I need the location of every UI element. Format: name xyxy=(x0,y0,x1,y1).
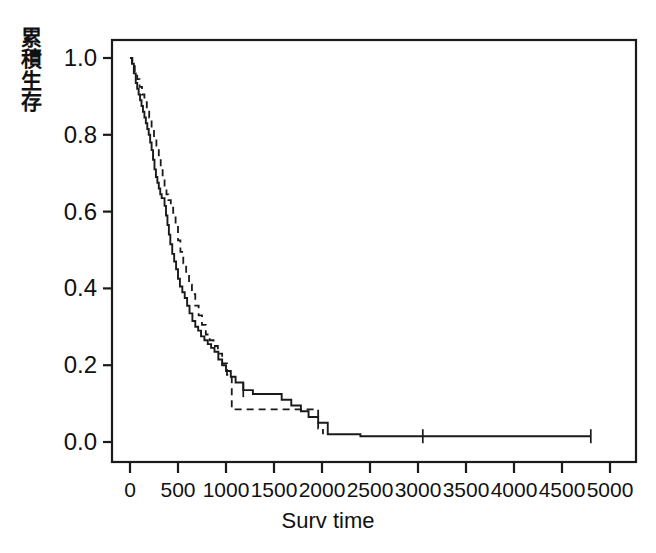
y-tick-label: 1.0 xyxy=(64,44,97,71)
x-axis-ticks: 0500100015002000250030003500400045005000 xyxy=(124,462,633,501)
x-tick-label: 2000 xyxy=(299,478,346,501)
plot-frame-box xyxy=(112,40,636,462)
x-tick-label: 500 xyxy=(160,478,195,501)
y-axis-label-char-2: 生 xyxy=(21,71,42,92)
x-tick-label: 1000 xyxy=(203,478,250,501)
plot-area: 0.00.20.40.60.81.0 050010001500200025003… xyxy=(0,0,656,553)
y-axis-label-char-0: 累 xyxy=(21,28,42,49)
x-tick-label: 3000 xyxy=(395,478,442,501)
x-tick-label: 4500 xyxy=(539,478,586,501)
x-tick-label: 5000 xyxy=(587,478,634,501)
x-tick-label: 1500 xyxy=(251,478,298,501)
survival-curves xyxy=(130,58,591,443)
x-tick-label: 2500 xyxy=(347,478,394,501)
x-tick-label: 0 xyxy=(124,478,136,501)
y-axis-label: 累 積 生 存 xyxy=(14,28,48,114)
y-tick-label: 0.0 xyxy=(64,428,97,455)
x-tick-label: 4000 xyxy=(491,478,538,501)
y-axis-label-char-1: 積 xyxy=(21,49,42,70)
plot-frame xyxy=(112,40,636,462)
survival-chart-figure: 累 積 生 存 0.00.20.40.60.81.0 0500100015002… xyxy=(0,0,656,553)
y-tick-label: 0.4 xyxy=(64,274,97,301)
curve-dashed-curve xyxy=(130,58,323,434)
y-tick-label: 0.6 xyxy=(64,198,97,225)
x-axis-label: Surv time xyxy=(0,508,656,534)
y-tick-label: 0.2 xyxy=(64,351,97,378)
y-tick-label: 0.8 xyxy=(64,121,97,148)
y-axis-label-char-3: 存 xyxy=(21,92,42,113)
y-axis-ticks: 0.00.20.40.60.81.0 xyxy=(64,44,112,455)
curve-solid-curve xyxy=(130,58,591,436)
x-tick-label: 3500 xyxy=(443,478,490,501)
